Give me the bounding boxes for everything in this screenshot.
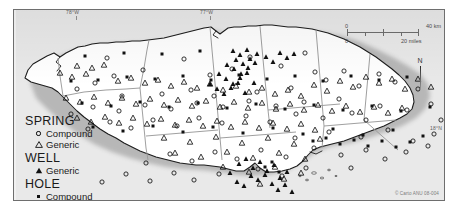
symbol-spring-compound xyxy=(182,57,186,61)
symbol-spring-compound xyxy=(148,179,152,183)
symbol-hole-compound xyxy=(84,55,87,58)
symbol-spring-generic xyxy=(312,127,318,132)
symbol-hole-compound xyxy=(199,50,202,53)
symbol-hole-compound xyxy=(264,166,267,169)
legend-label-hole-compound: Compound xyxy=(46,191,92,201)
symbol-spring-generic xyxy=(57,70,63,75)
symbol-spring-compound xyxy=(312,146,316,150)
symbol-spring-compound xyxy=(108,120,112,124)
longitude-tick-77w xyxy=(210,16,211,20)
symbol-spring-compound xyxy=(324,78,328,82)
symbol-spring-generic xyxy=(101,62,107,67)
legend-label-well-generic: Generic xyxy=(46,165,79,176)
symbol-spring-compound xyxy=(217,172,221,176)
symbol-spring-compound xyxy=(192,178,196,182)
map-frame: 18°N © Carto ANU 08-004 SPRING Compound … xyxy=(13,9,445,201)
symbol-well-generic xyxy=(278,175,283,180)
symbol-spring-generic xyxy=(116,120,122,125)
symbol-spring-generic xyxy=(91,94,97,99)
symbol-hole-compound xyxy=(409,141,412,144)
symbol-spring-generic xyxy=(168,83,174,88)
symbol-spring-compound xyxy=(168,152,172,156)
symbol-hole-compound xyxy=(226,107,229,110)
symbol-well-generic xyxy=(217,71,222,76)
symbol-spring-compound xyxy=(235,157,239,161)
scale-tick-4 xyxy=(418,29,419,36)
symbol-spring-compound xyxy=(197,116,201,120)
symbol-hole-compound xyxy=(332,128,335,131)
symbol-spring-compound xyxy=(124,172,128,176)
symbol-well-generic xyxy=(256,177,261,182)
symbol-spring-compound xyxy=(208,73,212,77)
legend-item-spring-generic: Generic xyxy=(32,139,92,150)
symbol-spring-generic xyxy=(228,124,234,129)
symbol-spring-generic xyxy=(302,156,308,161)
symbol-spring-generic xyxy=(324,88,330,93)
symbol-spring-generic xyxy=(357,109,363,114)
symbol-hole-compound xyxy=(123,52,126,55)
symbol-well-generic xyxy=(245,70,250,75)
symbol-hole-compound xyxy=(284,108,287,111)
scale-tick-1 xyxy=(365,32,366,36)
symbol-well-generic xyxy=(231,81,236,86)
legend-item-spring-compound: Compound xyxy=(32,128,92,139)
symbol-spring-generic xyxy=(130,115,136,120)
symbol-spring-compound xyxy=(303,51,307,55)
symbol-spring-generic xyxy=(115,78,121,83)
symbol-spring-generic xyxy=(291,141,297,146)
symbol-spring-generic xyxy=(147,96,153,101)
symbol-hole-compound xyxy=(238,74,241,77)
symbol-well-generic xyxy=(251,165,256,170)
symbol-well-generic xyxy=(231,48,236,53)
symbol-hole-compound xyxy=(392,129,395,132)
legend-item-well-generic: Generic xyxy=(32,165,92,176)
scale-tick-3 xyxy=(401,32,402,36)
symbol-spring-generic xyxy=(161,102,167,107)
legend-heading-hole: HOLE xyxy=(25,177,92,191)
symbol-hole-compound xyxy=(182,131,185,134)
symbol-hole-compound xyxy=(381,140,384,143)
scale-miles-zero: 0 xyxy=(345,38,348,44)
symbol-spring-compound xyxy=(213,150,217,154)
symbol-well-generic xyxy=(234,57,239,62)
symbol-spring-generic xyxy=(158,116,164,121)
symbol-hole-compound xyxy=(154,78,157,81)
symbol-hole-compound xyxy=(294,75,297,78)
symbol-spring-compound xyxy=(350,111,354,115)
symbol-spring-generic xyxy=(284,126,290,131)
symbol-spring-generic xyxy=(281,176,287,181)
symbol-well-generic xyxy=(224,76,229,81)
symbol-well-generic xyxy=(241,61,246,66)
symbol-well-generic xyxy=(276,187,281,192)
symbol-spring-generic xyxy=(343,103,349,108)
symbol-spring-generic xyxy=(385,110,391,115)
symbol-spring-compound xyxy=(313,70,317,74)
symbol-well-generic xyxy=(235,179,240,184)
symbol-spring-generic xyxy=(133,101,139,106)
symbol-spring-compound xyxy=(411,139,415,143)
symbol-hole-compound xyxy=(422,135,425,138)
symbol-spring-generic xyxy=(245,105,251,110)
symbol-spring-compound xyxy=(143,103,147,107)
symbol-spring-compound xyxy=(349,166,353,170)
symbol-spring-compound xyxy=(426,144,430,148)
symbol-spring-compound xyxy=(337,97,341,101)
symbol-hole-compound xyxy=(395,146,398,149)
symbol-spring-generic xyxy=(213,134,219,139)
symbol-hole-compound xyxy=(353,139,356,142)
symbol-spring-generic xyxy=(186,117,192,122)
symbol-hole-compound xyxy=(122,130,125,133)
symbol-hole-compound xyxy=(342,109,345,112)
legend-heading-spring: SPRING xyxy=(25,114,92,128)
symbol-spring-compound xyxy=(284,155,288,159)
symbol-spring-generic xyxy=(198,154,204,159)
symbol-hole-compound xyxy=(242,132,245,135)
symbol-well-generic xyxy=(245,47,250,52)
symbol-spring-compound xyxy=(144,161,148,165)
latitude-label-18n: 18°N xyxy=(430,125,442,131)
symbol-hole-compound xyxy=(197,102,200,105)
symbol-spring-generic xyxy=(337,78,343,83)
symbol-hole-compound xyxy=(362,134,365,137)
symbol-hole-compound xyxy=(182,75,185,78)
symbol-hole-compound xyxy=(302,133,305,136)
